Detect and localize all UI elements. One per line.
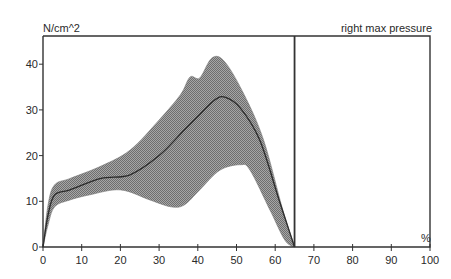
x-tick-label: 10 <box>76 254 88 266</box>
y-axis-ticks: 010203040 <box>26 58 43 253</box>
x-tick-label: 70 <box>308 254 320 266</box>
y-tick-label: 0 <box>32 241 38 253</box>
x-tick-label: 0 <box>40 254 46 266</box>
y-tick-label: 40 <box>26 58 38 70</box>
sd-band <box>43 56 295 247</box>
x-axis-unit-label: % <box>421 232 431 244</box>
x-tick-label: 50 <box>230 254 242 266</box>
chart-title: right max pressure <box>341 22 432 34</box>
y-tick-label: 30 <box>26 104 38 116</box>
y-tick-label: 20 <box>26 150 38 162</box>
x-tick-label: 100 <box>421 254 439 266</box>
y-tick-label: 10 <box>26 195 38 207</box>
pressure-chart: 010203040 0102030405060708090100 <box>0 0 451 279</box>
x-tick-label: 20 <box>114 254 126 266</box>
x-tick-label: 40 <box>192 254 204 266</box>
x-tick-label: 90 <box>385 254 397 266</box>
x-tick-label: 30 <box>153 254 165 266</box>
x-tick-label: 60 <box>269 254 281 266</box>
y-axis-label: N/cm^2 <box>43 22 80 34</box>
x-tick-label: 80 <box>346 254 358 266</box>
